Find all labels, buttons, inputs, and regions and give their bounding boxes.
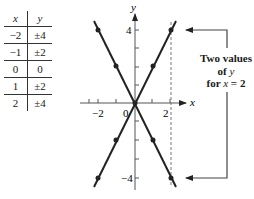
annotation-line-3-suffix: = 2	[228, 77, 245, 89]
annotation-line-2-prefix: of	[218, 65, 230, 77]
y-tick-label-neg-4: −4	[121, 172, 133, 184]
x-tick-label-0: 0	[123, 107, 129, 119]
annotation-line-3: for x = 2	[196, 77, 254, 90]
x-tick-label-2: 2	[163, 107, 169, 119]
annotation-text: Two values of y for x = 2	[196, 52, 254, 90]
x-tick-label-neg-2: −2	[92, 107, 104, 119]
y-axis-label: y	[130, 1, 136, 13]
annotation-line-2: of y	[196, 65, 254, 78]
y-tick-label-4: 4	[126, 24, 132, 36]
annotation-line-3-prefix: for	[207, 77, 224, 89]
annotation-line-1: Two values	[196, 52, 254, 65]
x-axis-label: x	[189, 96, 195, 108]
graph: y x 4 −4 −2 0 2	[0, 0, 254, 199]
annotation-var-y: y	[230, 65, 235, 77]
